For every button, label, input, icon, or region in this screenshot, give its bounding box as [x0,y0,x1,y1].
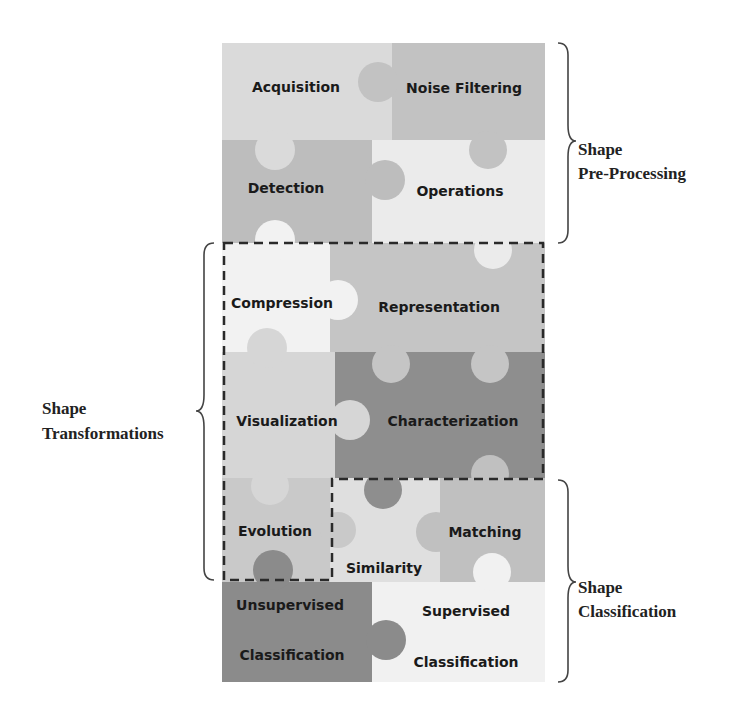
label-noise-filtering: Noise Filtering [406,80,522,96]
tab-unsupervised-right [366,620,406,660]
brace-pre-processing [558,43,576,243]
tab-characterization-down [364,471,402,509]
tab-matching-up [471,455,509,493]
tab-visualization-down [251,467,289,505]
group-pre-processing-line1: Shape [578,140,623,159]
group-transformations-line2: Transformations [42,424,164,443]
tab-visualization-up [247,328,287,368]
label-unsupervised-line2: Classification [239,647,344,663]
tab-evolution-right [320,512,356,548]
group-classification-line2: Classification [578,602,677,621]
tab-noise-filtering-down [469,131,507,169]
tab-representation-down-2 [471,345,509,383]
label-acquisition: Acquisition [252,79,340,95]
label-visualization: Visualization [236,413,337,429]
group-classification-line1: Shape [578,578,623,597]
label-characterization: Characterization [388,413,519,429]
tab-acquisition-down [255,130,295,170]
label-unsupervised-line1: Unsupervised [236,597,344,613]
label-matching: Matching [448,524,521,540]
tab-detection-right [365,160,405,200]
group-transformations-line1: Shape [42,399,87,418]
tab-operations-down [474,231,512,269]
tab-unsupervised-up [253,550,293,590]
label-supervised-line2: Classification [413,654,518,670]
group-pre-processing-line2: Pre-Processing [578,164,686,183]
tab-noise-filtering-left [358,62,398,102]
label-supervised-line1: Supervised [422,603,510,619]
tab-compression-up [255,220,295,260]
label-similarity: Similarity [346,560,422,576]
label-representation: Representation [378,299,500,315]
tab-representation-down-1 [372,345,410,383]
label-compression: Compression [231,295,333,311]
label-operations: Operations [416,183,503,199]
label-evolution: Evolution [238,523,312,539]
brace-transformations [196,243,214,580]
brace-classification [558,480,576,682]
piece-representation [330,243,545,353]
label-detection: Detection [248,180,325,196]
puzzle-diagram: Acquisition Noise Filtering Detection Op… [0,0,747,714]
tab-supervised-up [473,553,511,591]
